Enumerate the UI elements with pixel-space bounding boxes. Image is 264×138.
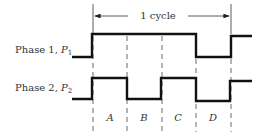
cycle-label: 1 cycle (140, 10, 176, 21)
phase2-label: Phase 2, P2 (15, 82, 72, 95)
timing-diagram: 1 cycle Phase 1, P1 Phase 2, P2 A B C D (0, 0, 264, 138)
interval-labels: A B C D (105, 112, 217, 123)
phase2-waveform (72, 78, 252, 101)
interval-label-d: D (208, 112, 217, 123)
cycle-bracket: 1 cycle (93, 4, 231, 34)
phase1-label: Phase 1, P1 (15, 44, 72, 57)
interval-label-b: B (139, 112, 147, 123)
interval-label-a: A (105, 112, 113, 123)
interval-label-c: C (174, 112, 182, 123)
